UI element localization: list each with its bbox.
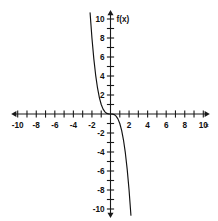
x-axis-tick-label: -10 (12, 121, 24, 130)
y-axis-tick-label: 4 (100, 72, 105, 81)
y-axis-tick-label: -4 (97, 148, 105, 157)
x-axis-tick-label: -4 (70, 121, 78, 130)
y-axis-label: f(x) (117, 15, 130, 24)
y-axis-tick-label: 8 (100, 34, 105, 43)
x-axis-tick-label: 4 (145, 121, 150, 130)
function-graph: -10-8-6-4-2246810108642-2-4-6-8-10f(x)x (0, 0, 218, 221)
y-axis-tick-label: 2 (100, 91, 105, 100)
x-axis-tick-label: 2 (127, 121, 132, 130)
y-axis-tick-label: 10 (95, 15, 105, 24)
y-axis-tick-label: -2 (97, 129, 105, 138)
x-axis-label: x (205, 122, 209, 128)
x-axis-tick-label: 6 (164, 121, 169, 130)
x-axis-tick-label: -6 (51, 121, 59, 130)
x-axis-right-arrow-icon (205, 111, 210, 117)
y-axis-bottom-arrow-icon (108, 213, 114, 218)
x-axis-tick-label: -8 (33, 121, 41, 130)
y-axis-tick-label: -8 (97, 186, 105, 195)
x-axis-tick-label: -2 (88, 121, 96, 130)
y-axis-tick-label: 6 (100, 53, 105, 62)
y-axis-top-arrow-icon (108, 10, 114, 15)
y-axis-tick-label: -6 (97, 167, 105, 176)
x-axis-tick-label: 8 (182, 121, 187, 130)
plot-canvas: -10-8-6-4-2246810108642-2-4-6-8-10f(x)x (0, 0, 218, 221)
y-axis-tick-label: -10 (93, 205, 105, 214)
x-axis-left-arrow-icon (11, 111, 16, 117)
